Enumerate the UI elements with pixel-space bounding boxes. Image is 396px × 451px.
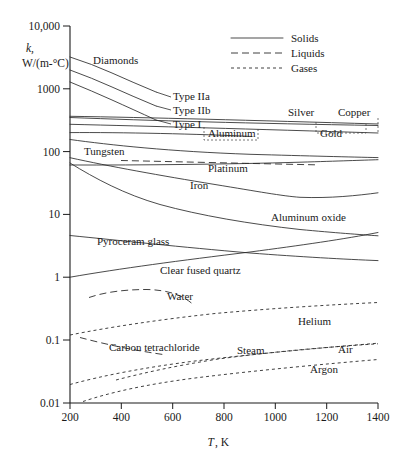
x-tick-label-600: 600 [164,411,182,423]
x-tick-labels: 200 400 600 800 1000 1200 1400 [61,411,389,423]
leader-type-iib [156,106,171,110]
metal-curves [70,116,378,165]
y-tick-label-10000: 10,000 [28,20,60,33]
legend-label-liquids: Liquids [291,47,325,59]
x-tick-label-200: 200 [61,411,79,423]
y-tick-label-0.1: 0.1 [46,334,61,346]
x-tick-label-1200: 1200 [315,411,338,423]
label-argon: Argon [310,363,338,375]
label-aluminum-oxide: Aluminum oxide [271,211,346,223]
label-iron: Iron [190,179,209,191]
legend-label-solids: Solids [291,32,319,44]
y-tick-label-100: 100 [43,146,61,158]
curve-helium [70,303,378,336]
label-type-iib: Type IIb [173,104,211,116]
label-aluminum: Aluminum [208,127,256,139]
y-tick-label-10: 10 [49,208,61,220]
label-water: Water [167,290,193,302]
label-gold: Gold [320,127,343,139]
curve-copper [70,118,378,126]
label-clear-fused-quartz: Clear fused quartz [160,264,241,276]
label-platinum: Platinum [208,162,248,174]
label-type-iia: Type IIa [173,90,210,102]
label-carbon-tetrachloride: Carbon tetrachloride [109,341,200,353]
leader-type-iia [156,92,171,97]
label-diamonds: Diamonds [93,54,138,66]
y-tick-label-1: 1 [54,271,60,283]
label-steam: Steam [237,344,265,356]
label-copper: Copper [338,106,371,118]
x-tick-label-1000: 1000 [264,411,287,423]
label-air: Air [338,343,353,355]
y-tick-label-0.01: 0.01 [40,397,60,409]
label-helium: Helium [298,315,331,327]
label-pyroceram-glass: Pyroceram glass [97,235,169,247]
chart-canvas: 10,000 1000 100 10 1 0.1 0.01 200 400 60… [0,0,396,451]
y-axis-label-line1: k, [26,42,34,55]
x-tick-label-400: 400 [113,411,131,423]
legend: Solids Liquids Gases [231,32,325,74]
x-tick-label-1400: 1400 [367,411,390,423]
y-axis-label-line2: W/(m-°C) [22,57,69,70]
label-silver: Silver [288,106,315,118]
legend-label-gases: Gases [291,62,317,74]
y-tick-label-1000: 1000 [37,83,60,95]
y-tick-labels: 10,000 1000 100 10 1 0.1 0.01 [28,20,60,409]
diamond-curves [70,57,171,124]
label-tungsten: Tungsten [84,145,125,157]
curve-silver [70,116,378,124]
x-tick-label-800: 800 [215,411,233,423]
x-axis-label-unit: , K [215,436,230,449]
thermal-conductivity-chart: 10,000 1000 100 10 1 0.1 0.01 200 400 60… [0,0,396,451]
